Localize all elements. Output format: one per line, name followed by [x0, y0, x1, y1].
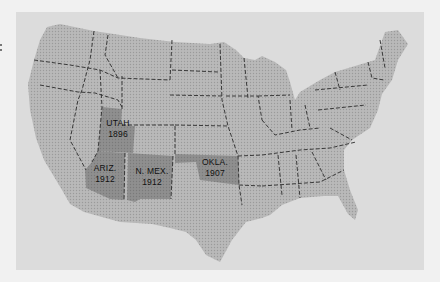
- label-new-mexico: N. MEX. 1912: [132, 166, 172, 188]
- label-utah: UTAH 1896: [103, 118, 133, 140]
- state-name: N. MEX.: [132, 166, 172, 177]
- state-name: ARIZ.: [90, 163, 120, 174]
- statehood-year: 1907: [198, 168, 232, 179]
- us-map: [0, 0, 440, 282]
- statehood-year: 1896: [103, 129, 133, 140]
- statehood-year: 1912: [90, 174, 120, 185]
- state-name: UTAH: [103, 118, 133, 129]
- label-arizona: ARIZ. 1912: [90, 163, 120, 185]
- state-name: OKLA.: [198, 157, 232, 168]
- us-landmass: [28, 24, 408, 262]
- statehood-year: 1912: [132, 177, 172, 188]
- label-oklahoma: OKLA. 1907: [198, 157, 232, 179]
